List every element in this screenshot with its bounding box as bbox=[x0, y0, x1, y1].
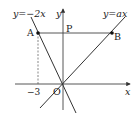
label-line-ax: y=ax bbox=[102, 8, 128, 19]
label-point-a: A bbox=[26, 27, 34, 38]
label-point-p: P bbox=[66, 23, 73, 34]
label-point-b: B bbox=[114, 31, 121, 42]
label-x-axis: x bbox=[125, 86, 131, 97]
coordinate-diagram: y=−2x y y=ax P A B −3 O x bbox=[0, 0, 139, 119]
label-line-neg2x: y=−2x bbox=[12, 8, 46, 19]
point-a bbox=[36, 31, 40, 35]
label-origin: O bbox=[53, 86, 61, 97]
label-tick-minus3: −3 bbox=[27, 87, 41, 97]
label-y-axis: y bbox=[55, 8, 62, 19]
